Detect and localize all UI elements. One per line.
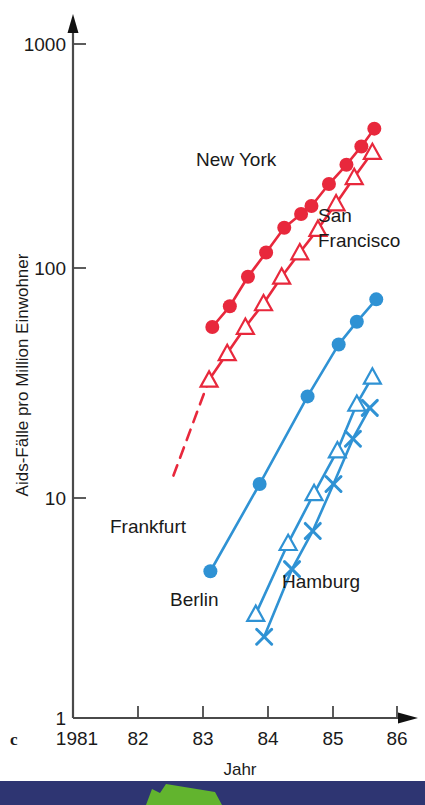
series-label-berlin: Berlin <box>170 589 219 610</box>
data-point-marker <box>203 564 217 578</box>
data-point-marker <box>339 158 353 172</box>
data-point-marker <box>241 270 255 284</box>
bottom-band <box>0 781 425 805</box>
data-point-marker <box>223 299 237 313</box>
x-axis-title: Jahr <box>223 760 256 779</box>
x-tick-label-1981: 1981 <box>56 728 98 749</box>
data-point-marker <box>277 221 291 235</box>
data-point-marker <box>304 199 318 213</box>
series-label-new-york: New York <box>196 149 277 170</box>
x-tick-label-84: 84 <box>257 728 279 749</box>
series-label-san: San <box>318 205 352 226</box>
figure-container: 1000 100 10 1 1981 82 83 84 85 86 Aids-F… <box>0 0 425 805</box>
y-tick-label-1: 1 <box>55 708 66 729</box>
x-tick-label-86: 86 <box>386 728 407 749</box>
data-point-marker <box>369 292 383 306</box>
x-tick-label-85: 85 <box>322 728 343 749</box>
y-tick-label-10: 10 <box>45 488 66 509</box>
y-axis-title: Aids-Fälle pro Million Einwohner <box>13 253 32 496</box>
x-tick-label-83: 83 <box>192 728 213 749</box>
data-point-marker <box>332 337 346 351</box>
data-point-marker <box>354 139 368 153</box>
panel-letter: c <box>10 730 18 749</box>
series-label-frankfurt: Frankfurt <box>110 516 187 537</box>
data-point-marker <box>259 246 273 260</box>
chart-svg: 1000 100 10 1 1981 82 83 84 85 86 Aids-F… <box>0 0 425 805</box>
series-label-francisco: Francisco <box>318 230 400 251</box>
y-tick-label-100: 100 <box>34 258 66 279</box>
data-point-marker <box>367 122 381 136</box>
data-point-marker <box>301 389 315 403</box>
data-point-marker <box>322 177 336 191</box>
data-point-marker <box>350 315 364 329</box>
y-tick-label-1000: 1000 <box>24 34 66 55</box>
series-label-hamburg: Hamburg <box>282 571 360 592</box>
data-point-marker <box>205 320 219 334</box>
x-tick-label-82: 82 <box>127 728 148 749</box>
data-point-marker <box>253 477 267 491</box>
